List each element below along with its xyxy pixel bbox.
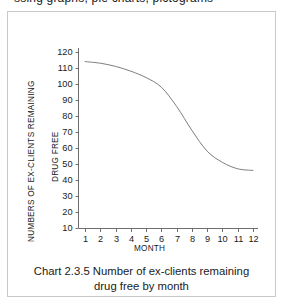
- y-axis-tick-label: 40: [62, 175, 72, 185]
- y-axis-tick-label: 100: [57, 79, 72, 89]
- x-axis-tick-label: 6: [159, 234, 164, 244]
- x-axis-ticks: [86, 229, 254, 233]
- caption-line-2: drug free by month: [8, 279, 275, 294]
- x-axis-tick-label: 8: [190, 234, 195, 244]
- x-axis-tick-label: 9: [205, 234, 210, 244]
- line-chart-svg: 102030405060708090100110120 123456789101…: [8, 12, 275, 264]
- x-axis-tick-label: 3: [114, 234, 119, 244]
- y-axis-tick-labels: 102030405060708090100110120: [57, 47, 72, 233]
- x-axis-tick-label: 2: [98, 234, 103, 244]
- y-axis-tick-label: 30: [62, 191, 72, 201]
- y-axis-tick-label: 90: [62, 95, 72, 105]
- chart-figure-frame: NUMBERS OF EX-CLIENTS REMAINING DRUG FRE…: [7, 11, 276, 297]
- y-axis-tick-label: 10: [62, 223, 72, 233]
- clipped-heading-text: ssing graphs, pie charts, pictograms: [14, 0, 213, 5]
- x-axis: 123456789101112: [79, 229, 259, 245]
- caption-line-1: Chart 2.3.5 Number of ex-clients remaini…: [8, 264, 275, 279]
- x-axis-tick-label: 12: [248, 234, 258, 244]
- y-axis-tick-label: 110: [58, 63, 73, 73]
- y-axis-tick-label: 50: [62, 159, 72, 169]
- plot-area: NUMBERS OF EX-CLIENTS REMAINING DRUG FRE…: [8, 12, 275, 264]
- x-axis-tick-label: 11: [234, 234, 244, 244]
- x-axis-tick-label: 7: [175, 234, 180, 244]
- y-axis-tick-label: 120: [57, 47, 72, 57]
- x-axis-tick-label: 1: [83, 234, 88, 244]
- clipped-top-text-strip: ssing graphs, pie charts, pictograms: [0, 0, 283, 11]
- y-axis: 102030405060708090100110120: [57, 47, 78, 233]
- y-axis-tick-label: 20: [62, 207, 72, 217]
- y-axis-tick-label: 60: [62, 143, 72, 153]
- data-series-line: [85, 62, 253, 171]
- y-axis-tick-label: 70: [62, 127, 72, 137]
- x-axis-tick-labels: 123456789101112: [83, 234, 259, 244]
- chart-caption: Chart 2.3.5 Number of ex-clients remaini…: [8, 264, 275, 294]
- y-axis-tick-label: 80: [62, 111, 72, 121]
- x-axis-tick-label: 5: [144, 234, 149, 244]
- x-axis-tick-label: 10: [217, 234, 227, 244]
- x-axis-tick-label: 4: [129, 234, 134, 244]
